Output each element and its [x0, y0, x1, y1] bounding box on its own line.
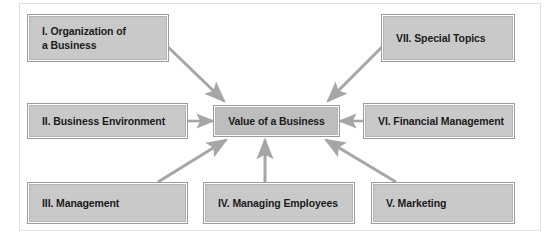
node-special-topics[interactable]: VII. Special Topics — [382, 15, 514, 61]
center-node-label: Value of a Business — [228, 114, 325, 128]
arrow-vii-to-center — [328, 46, 383, 101]
node-label: V. Marketing — [373, 196, 446, 210]
node-organization-of-a-business[interactable]: I. Organization of a Business — [28, 15, 168, 61]
diagram-canvas: I. Organization of a Business VII. Speci… — [0, 0, 552, 242]
node-label: III. Management — [29, 196, 119, 210]
node-label: IV. Managing Employees — [205, 196, 338, 210]
node-value-of-a-business[interactable]: Value of a Business — [214, 106, 339, 136]
node-label: VII. Special Topics — [383, 31, 486, 45]
node-managing-employees[interactable]: IV. Managing Employees — [204, 183, 354, 223]
arrow-iii-to-center — [158, 140, 226, 182]
node-label: I. Organization of a Business — [29, 24, 126, 52]
node-financial-management[interactable]: VI. Financial Management — [364, 104, 514, 138]
node-marketing[interactable]: V. Marketing — [372, 183, 514, 223]
arrow-i-to-center — [167, 46, 224, 101]
arrow-v-to-center — [326, 140, 396, 182]
node-business-environment[interactable]: II. Business Environment — [28, 104, 187, 138]
node-label: VI. Financial Management — [365, 114, 504, 128]
node-management[interactable]: III. Management — [28, 183, 187, 223]
node-label: II. Business Environment — [29, 114, 165, 128]
